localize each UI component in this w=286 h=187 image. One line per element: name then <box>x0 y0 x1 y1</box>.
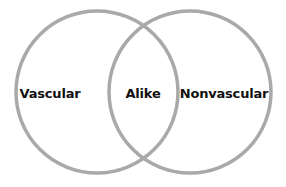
right-set-label: Nonvascular <box>180 86 268 101</box>
left-set-label: Vascular <box>20 86 81 101</box>
intersection-label: Alike <box>125 86 160 101</box>
venn-diagram: Vascular Alike Nonvascular <box>0 0 286 187</box>
